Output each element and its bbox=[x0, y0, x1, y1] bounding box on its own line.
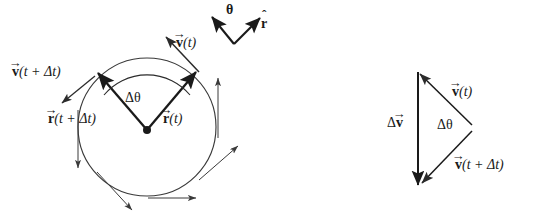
label-triangle-v-t: →v(t) bbox=[452, 85, 472, 99]
delta-theta-arc bbox=[104, 75, 190, 95]
vector-accent-icon: → bbox=[393, 108, 406, 121]
hat-accent-icon: ˆ bbox=[227, 0, 231, 7]
label-delta-theta-triangle: Δθ bbox=[437, 118, 453, 132]
vector-accent-icon: → bbox=[9, 57, 22, 70]
vector-accent-icon: → bbox=[160, 104, 173, 117]
unit-vector-theta-hat-arrow bbox=[212, 17, 234, 44]
label-r-t: →r(t) bbox=[163, 112, 182, 126]
tangent-arrow-lower-right bbox=[199, 146, 238, 180]
label-theta-hat: ˆθ bbox=[226, 3, 233, 17]
label-v-t: →v(t) bbox=[176, 36, 196, 50]
label-triangle-v-t-plus-dt: →v(t + Δt) bbox=[455, 158, 504, 172]
label-v-t-plus-dt: →v(t + Δt) bbox=[12, 65, 61, 79]
vector-accent-icon: → bbox=[45, 104, 58, 117]
label-r-hat: ˆr bbox=[261, 17, 267, 31]
unit-vector-r-hat-arrow bbox=[234, 18, 260, 44]
vector-accent-icon: → bbox=[452, 150, 465, 163]
hat-accent-icon: ˆ bbox=[262, 8, 266, 21]
label-delta-theta-circle: Δθ bbox=[125, 91, 141, 105]
physics-figure: →v(t) →v(t + Δt) →r(t) →r(t + Δt) Δθ ˆθ … bbox=[0, 0, 539, 223]
label-delta-v: Δ→v bbox=[387, 116, 403, 130]
velocity-vector-v-t-plus-dt bbox=[62, 76, 95, 103]
tangent-arrow-lower-left bbox=[97, 172, 132, 210]
vector-accent-icon: → bbox=[173, 28, 186, 41]
label-r-t-plus-dt: →r(t + Δt) bbox=[48, 112, 96, 126]
vector-accent-icon: → bbox=[449, 77, 462, 90]
